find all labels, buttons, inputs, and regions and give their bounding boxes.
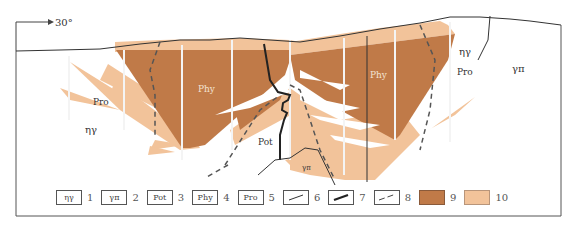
label-pro-left: Pro xyxy=(93,97,109,107)
dark-fill-swatch xyxy=(419,190,445,205)
legend-number: 2 xyxy=(132,192,138,203)
legend-box-ny: ηγ xyxy=(56,190,82,205)
legend-box-phy: Phy xyxy=(192,190,218,205)
label-pot: Pot xyxy=(258,137,273,147)
legend-number: 7 xyxy=(359,192,365,203)
label-ypi-small: γπ xyxy=(302,164,311,172)
legend-number: 4 xyxy=(223,192,229,203)
orientation-arrow xyxy=(16,19,54,51)
legend-item-6: 6 xyxy=(283,190,320,205)
legend-number: 8 xyxy=(405,192,411,203)
dashed-line-icon xyxy=(374,190,400,205)
legend: ηγ 1 γπ 2 Pot 3 Phy 4 Pro 5 6 7 8 9 xyxy=(56,186,516,208)
legend-item-10: 10 xyxy=(464,190,508,205)
thin-line-icon xyxy=(283,190,309,205)
legend-item-5: Pro 5 xyxy=(238,190,275,205)
legend-number: 9 xyxy=(450,192,456,203)
light-fill-swatch xyxy=(464,190,490,205)
legend-item-4: Phy 4 xyxy=(192,190,229,205)
label-pro-right: Pro xyxy=(457,67,473,77)
label-ny-left: ηγ xyxy=(85,124,97,135)
legend-box-pot: Pot xyxy=(147,190,173,205)
legend-number: 5 xyxy=(269,192,275,203)
legend-item-3: Pot 3 xyxy=(147,190,184,205)
label-ny-right: ηγ xyxy=(459,46,471,57)
legend-item-2: γπ 2 xyxy=(101,190,138,205)
label-phy-right: Phy xyxy=(370,70,388,80)
label-ypi-right: γπ xyxy=(512,63,525,74)
legend-item-7: 7 xyxy=(328,190,365,205)
legend-number: 6 xyxy=(314,192,320,203)
thick-line-icon xyxy=(328,190,354,205)
label-phy-left: Phy xyxy=(198,84,216,94)
legend-item-8: 8 xyxy=(374,190,411,205)
legend-item-9: 9 xyxy=(419,190,456,205)
legend-item-1: ηγ 1 xyxy=(56,190,93,205)
legend-number: 3 xyxy=(178,192,184,203)
legend-box-pro: Pro xyxy=(238,190,264,205)
legend-number: 10 xyxy=(495,192,508,203)
legend-box-ypi: γπ xyxy=(101,190,127,205)
legend-number: 1 xyxy=(87,192,93,203)
orientation-label: 30° xyxy=(55,17,73,28)
